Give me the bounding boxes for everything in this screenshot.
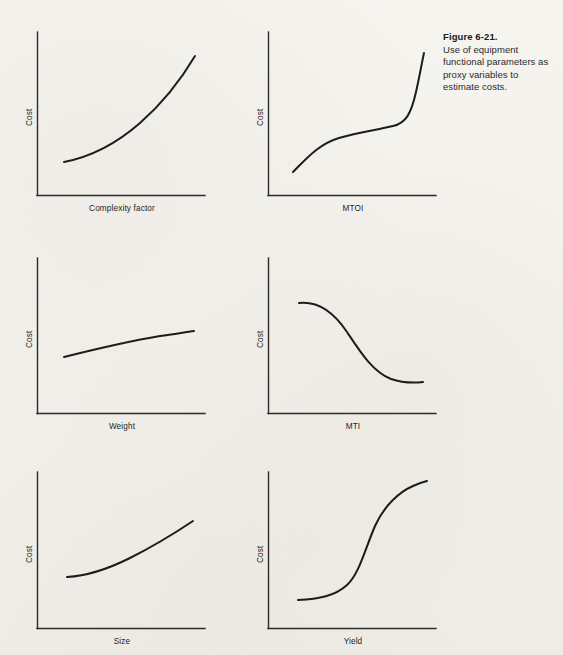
- y-axis-label-mti: Cost: [256, 331, 265, 348]
- chart-svg-complexity-factor: [20, 26, 210, 211]
- y-axis-label-size: Cost: [25, 546, 34, 563]
- y-axis-label-weight: Cost: [25, 331, 34, 348]
- figure-caption-text: Use of equipment functional parameters a…: [443, 44, 555, 94]
- chart-svg-mti: [251, 252, 441, 437]
- data-curve-yield: [298, 481, 427, 600]
- data-curve-mtoi: [293, 53, 424, 172]
- chart-panel-size: Size Cost: [20, 466, 210, 655]
- chart-panel-mtoi: MTOI Cost: [251, 26, 441, 216]
- chart-svg-weight: [20, 252, 210, 437]
- figure-number: Figure 6-21.: [443, 31, 555, 44]
- data-curve-complexity-factor: [64, 56, 195, 162]
- chart-svg-size: [20, 466, 210, 651]
- x-axis-label-yield: Yield: [268, 637, 438, 646]
- x-axis-label-mtoi: MTOI: [268, 204, 438, 213]
- chart-panel-weight: Weight Cost: [20, 252, 210, 442]
- x-axis-label-mti: MTI: [268, 422, 438, 431]
- data-curve-weight: [64, 331, 194, 357]
- y-axis-label-yield: Cost: [256, 546, 265, 563]
- y-axis-label-complexity-factor: Cost: [25, 109, 34, 126]
- x-axis-label-complexity-factor: Complexity factor: [37, 204, 207, 213]
- data-curve-mti: [299, 303, 423, 383]
- data-curve-size: [67, 521, 193, 577]
- x-axis-label-size: Size: [37, 637, 207, 646]
- chart-panel-mti: MTI Cost: [251, 252, 441, 442]
- chart-svg-mtoi: [251, 26, 441, 211]
- chart-svg-yield: [251, 466, 441, 651]
- chart-panel-complexity-factor: Complexity factor Cost: [20, 26, 210, 216]
- x-axis-label-weight: Weight: [37, 422, 207, 431]
- figure-page: Figure 6-21. Use of equipment functional…: [0, 0, 563, 655]
- y-axis-label-mtoi: Cost: [256, 109, 265, 126]
- chart-panel-yield: Yield Cost: [251, 466, 441, 655]
- figure-caption: Figure 6-21. Use of equipment functional…: [443, 31, 555, 94]
